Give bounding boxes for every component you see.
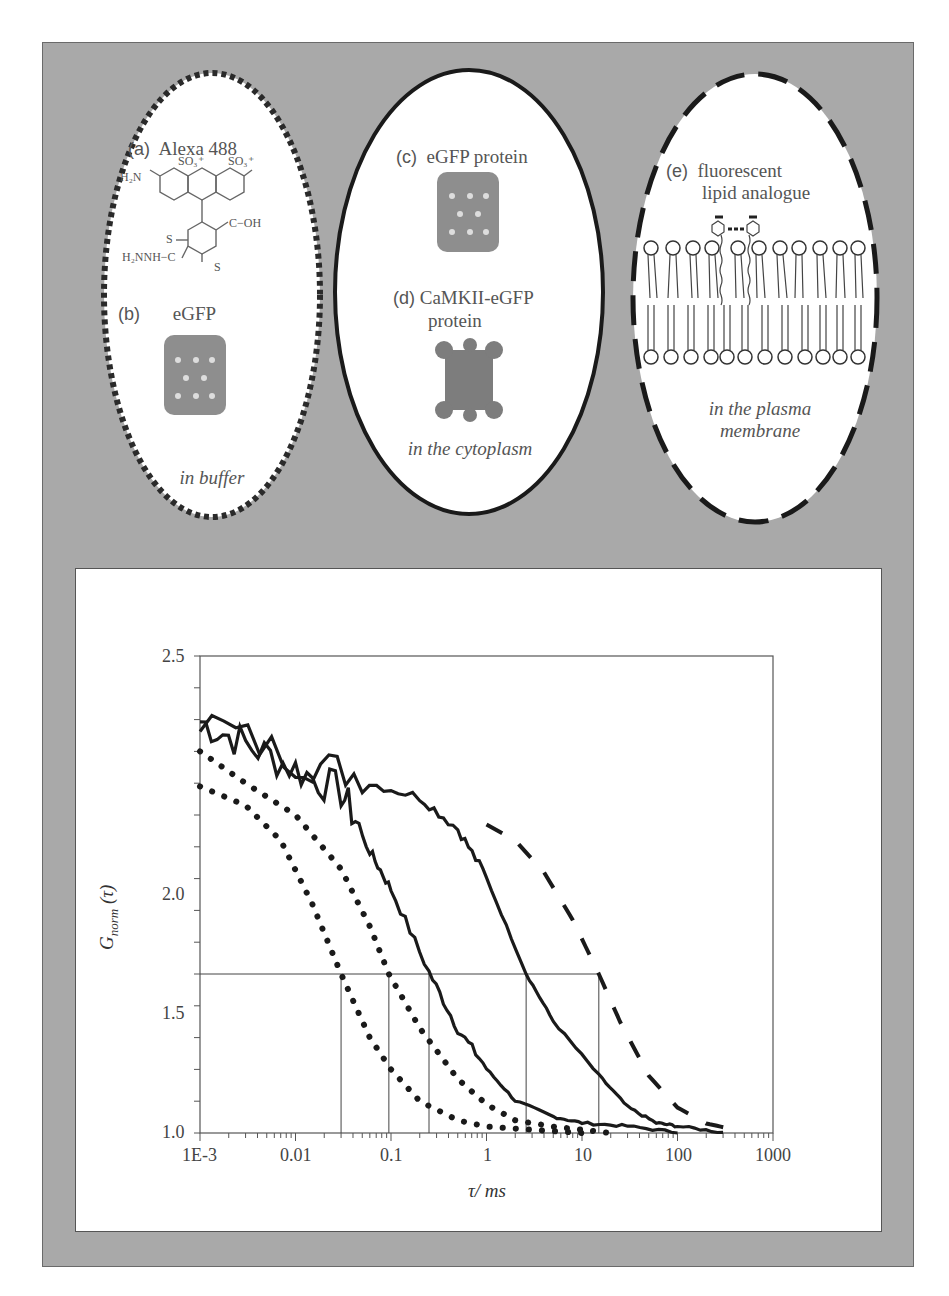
curve-3	[200, 716, 723, 1133]
curve-2	[200, 722, 678, 1133]
fcs-autocorrelation-chart	[0, 0, 949, 1296]
x-tick-0-01: 0.01	[280, 1145, 312, 1166]
x-tick-1: 1	[483, 1145, 492, 1166]
x-tick-1000: 1000	[755, 1145, 791, 1166]
curve-4	[487, 825, 736, 1130]
x-axis-label: τ/ ms	[468, 1180, 506, 1202]
x-tick-100: 100	[665, 1145, 692, 1166]
y-tick-1-5: 1.5	[162, 1003, 185, 1024]
curve-1	[200, 751, 611, 1133]
curve-0	[200, 786, 582, 1133]
y-tick-2-0: 2.0	[162, 884, 185, 905]
x-tick-10: 10	[574, 1145, 592, 1166]
y-tick-2-5: 2.5	[162, 646, 185, 667]
plot-frame	[200, 656, 773, 1133]
y-axis-label: Gnorm (τ)	[96, 885, 122, 950]
x-tick-0-1: 0.1	[380, 1145, 403, 1166]
x-tick-1e-3: 1E-3	[182, 1145, 217, 1166]
y-tick-1-0: 1.0	[162, 1122, 185, 1143]
